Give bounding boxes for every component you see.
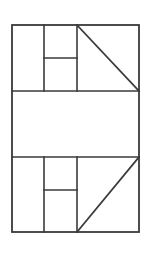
figure-canvas bbox=[0, 0, 151, 257]
canvas-background bbox=[0, 0, 151, 257]
line-drawing bbox=[0, 0, 151, 257]
